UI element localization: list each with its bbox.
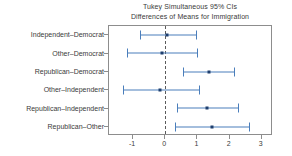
confidence-interval-row [109,44,271,62]
chart-title: Tukey Simultaneous 95% CIs Differences o… [108,2,272,21]
x-axis-tick-label: 2 [227,140,231,147]
tukey-ci-chart: Tukey Simultaneous 95% CIs Differences o… [0,0,292,156]
confidence-interval-row [109,81,271,99]
ci-cap-lower [177,104,178,113]
confidence-interval-row [109,63,271,81]
x-axis-tick [229,135,230,139]
x-axis-tick [196,135,197,139]
x-axis-tick-label: 0 [162,140,166,147]
x-axis-tick [164,135,165,139]
mean-difference-point [206,107,209,110]
ci-cap-upper [196,31,197,40]
y-axis-label: Other–Independent [0,86,104,93]
x-axis-tick-label: 3 [259,140,263,147]
mean-difference-point [210,125,213,128]
mean-difference-point [161,52,164,55]
ci-cap-upper [234,67,235,76]
mean-difference-point [165,34,168,37]
y-axis-label: Republican–Independent [0,104,104,111]
ci-cap-lower [175,122,176,131]
ci-cap-upper [197,49,198,58]
ci-cap-upper [199,86,200,95]
x-axis-tick-label: -1 [129,140,135,147]
chart-title-line-1: Tukey Simultaneous 95% CIs [108,2,272,12]
y-axis-label: Other–Democrat [0,49,104,56]
mean-difference-point [207,70,210,73]
x-axis-tick [132,135,133,139]
confidence-interval-row [109,26,271,44]
y-axis-category-labels: Independent–DemocratOther–DemocratRepubl… [0,25,104,135]
mean-difference-point [159,89,162,92]
y-axis-label: Republican–Democrat [0,67,104,74]
x-axis-tick [261,135,262,139]
ci-cap-upper [238,104,239,113]
x-axis: -10123 [108,135,272,156]
y-axis-label: Independent–Democrat [0,31,104,38]
y-axis-label: Republican–Other [0,122,104,129]
plot-area [108,25,272,135]
ci-cap-lower [183,67,184,76]
x-axis-tick-label: 1 [194,140,198,147]
ci-cap-upper [249,122,250,131]
confidence-interval-row [109,118,271,136]
confidence-interval-row [109,99,271,117]
chart-subtitle-line-2: Differences of Means for Immigration [108,12,272,22]
ci-cap-lower [140,31,141,40]
ci-cap-lower [123,86,124,95]
ci-cap-lower [127,49,128,58]
